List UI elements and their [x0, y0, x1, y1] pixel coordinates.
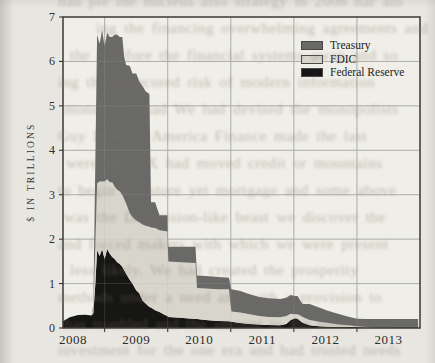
- crisis-support-stacked-area-chart: 01234567200820092010201120122013 $ IN TR…: [0, 0, 435, 363]
- x-year-label: 2012: [311, 332, 339, 347]
- legend-item-treasury: Treasury: [301, 39, 404, 53]
- legend: Treasury FDIC Federal Reserve: [301, 39, 404, 80]
- y-tick-label: 7: [49, 10, 55, 24]
- x-year-label: 2008: [59, 332, 87, 347]
- y-tick-label: 5: [49, 99, 55, 113]
- y-tick-label: 2: [49, 232, 55, 246]
- legend-label: Federal Reserve: [330, 67, 404, 79]
- treasury-swatch: [301, 41, 323, 50]
- y-tick-label: 3: [49, 188, 55, 202]
- book-page: 01234567200820092010201120122013 $ IN TR…: [0, 0, 435, 363]
- federal-reserve-swatch: [301, 68, 323, 77]
- y-tick-label: 0: [49, 321, 55, 335]
- x-year-label: 2009: [122, 332, 150, 347]
- legend-item-fdic: FDIC: [301, 53, 404, 67]
- y-tick-label: 6: [49, 54, 55, 68]
- legend-item-federal-reserve: Federal Reserve: [301, 66, 404, 80]
- legend-label: FDIC: [330, 54, 356, 66]
- x-year-label: 2011: [249, 332, 277, 347]
- fdic-swatch: [301, 55, 323, 64]
- x-year-label: 2013: [375, 332, 403, 347]
- legend-label: Treasury: [330, 40, 370, 52]
- y-axis-title: $ IN TRILLIONS: [26, 72, 40, 272]
- x-year-label: 2010: [185, 332, 213, 347]
- y-tick-label: 1: [49, 277, 55, 291]
- y-tick-label: 4: [49, 143, 55, 157]
